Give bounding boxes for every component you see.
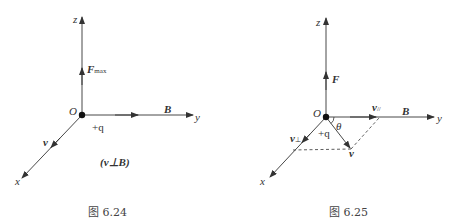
z-axis-label: z (73, 14, 77, 25)
charge-dot (323, 114, 329, 120)
velocity-label: v (43, 137, 48, 148)
velocity-arrow (51, 138, 60, 148)
force-label: Fmax (87, 64, 106, 75)
condition-label: (v⊥B) (100, 157, 130, 168)
field-label: B (402, 106, 409, 117)
velocity-label: v (349, 148, 354, 159)
y-axis-label: y (437, 113, 442, 124)
dashed-projection-parallel (351, 118, 379, 149)
x-axis-label: x (15, 176, 20, 187)
angle-arc (331, 117, 334, 124)
origin-label: O (313, 108, 321, 119)
charge-label: +q (92, 122, 104, 133)
figure-6-24-drawing (22, 17, 193, 178)
angle-label: θ (336, 121, 341, 132)
figure-caption: 图 6.24 (88, 203, 127, 219)
v-perp-label: v⊥ (290, 133, 301, 144)
y-axis-label: y (195, 112, 200, 123)
field-label: B (164, 104, 171, 115)
diagram-canvas (0, 0, 452, 222)
z-axis-label: z (316, 17, 320, 28)
v-parallel-label: v// (372, 102, 381, 113)
charge-dot (79, 112, 85, 118)
dashed-projection-perp (293, 149, 351, 150)
force-label: F (332, 74, 339, 85)
v-perp-arrow (302, 134, 310, 143)
figure-caption: 图 6.25 (329, 203, 368, 219)
charge-label: +q (318, 128, 330, 139)
origin-label: O (69, 106, 77, 117)
x-axis-label: x (260, 176, 265, 187)
x-axis (270, 117, 326, 177)
